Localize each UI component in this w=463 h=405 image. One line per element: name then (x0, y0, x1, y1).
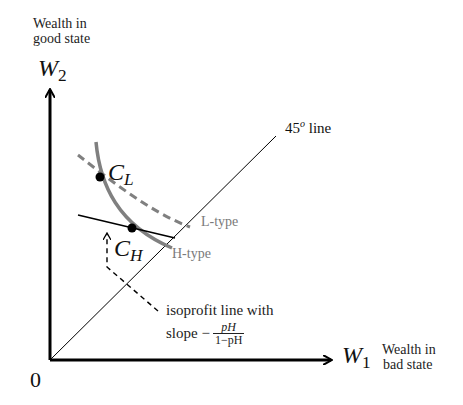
fraction-denominator: 1−pH (213, 334, 244, 347)
x-axis-description: Wealth in bad state (382, 343, 436, 372)
l-type-label: L-type (201, 215, 238, 230)
isoprofit-slope-fraction: pH 1−pH (213, 321, 244, 347)
y-axis-symbol-letter: W (38, 55, 58, 81)
isoprofit-slope-prefix: slope − (166, 325, 210, 341)
45-label-text: line (305, 120, 331, 136)
x-axis-symbol-subscript: 1 (362, 353, 371, 372)
point-c-l (96, 173, 105, 182)
y-axis-description: Wealth in good state (33, 17, 90, 46)
isoprofit-slope: slope − pH 1−pH (166, 321, 274, 347)
y-axis-description-line2: good state (33, 32, 90, 47)
l-type-curve (78, 155, 190, 227)
45-degree-line-label: 45o line (285, 119, 331, 137)
y-axis-symbol-subscript: 2 (58, 66, 67, 85)
c-h-subscript: H (130, 246, 142, 265)
isoprofit-label-line1: isoprofit line with (166, 303, 274, 319)
c-h-letter: C (114, 235, 130, 261)
point-c-l-label: CL (108, 160, 134, 189)
fraction-numerator: pH (213, 321, 244, 335)
c-l-subscript: L (124, 170, 134, 189)
x-axis-description-line1: Wealth in (382, 343, 436, 358)
isoprofit-label: isoprofit line with slope − pH 1−pH (166, 303, 274, 347)
point-c-h-label: CH (114, 236, 142, 265)
x-axis-symbol: W1 (342, 343, 371, 372)
c-l-letter: C (108, 159, 124, 185)
y-axis-symbol: W2 (38, 56, 67, 85)
x-axis-symbol-letter: W (342, 342, 362, 368)
x-axis-description-line2: bad state (382, 358, 436, 373)
45-label-number: 45 (285, 120, 300, 136)
h-type-label: H-type (172, 247, 211, 262)
origin-label: 0 (30, 368, 41, 391)
point-c-h (128, 224, 137, 233)
y-axis-description-line1: Wealth in (33, 17, 90, 32)
